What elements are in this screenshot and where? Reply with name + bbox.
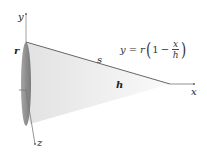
radius-label: r bbox=[14, 46, 19, 56]
x-axis-arrow-icon bbox=[193, 83, 195, 85]
fraction-denominator: h bbox=[173, 50, 179, 60]
x-axis-label: x bbox=[191, 87, 197, 97]
height-label: h bbox=[116, 80, 123, 90]
equation-equals: = bbox=[129, 44, 137, 55]
z-axis-arrow-icon bbox=[34, 143, 36, 145]
y-axis-label: y bbox=[18, 12, 24, 22]
equation-lhs: y bbox=[120, 44, 126, 55]
z-axis-label: z bbox=[37, 138, 42, 148]
fraction-numerator: x bbox=[172, 39, 179, 50]
y-axis-arrow-icon bbox=[25, 13, 27, 15]
equation-close-paren: ) bbox=[181, 40, 186, 59]
cone-equation: y = r ( 1 − x h ) bbox=[120, 39, 188, 60]
slant-label: s bbox=[97, 55, 102, 65]
equation-r: r bbox=[140, 44, 145, 55]
equation-minus: − bbox=[161, 44, 169, 55]
cone-figure bbox=[0, 0, 207, 154]
cone-diagram: y x z r s h y = r ( 1 − x h ) bbox=[0, 0, 207, 154]
equation-fraction: x h bbox=[172, 39, 179, 60]
equation-one: 1 bbox=[152, 44, 158, 55]
equation-open-paren: ( bbox=[146, 40, 151, 59]
